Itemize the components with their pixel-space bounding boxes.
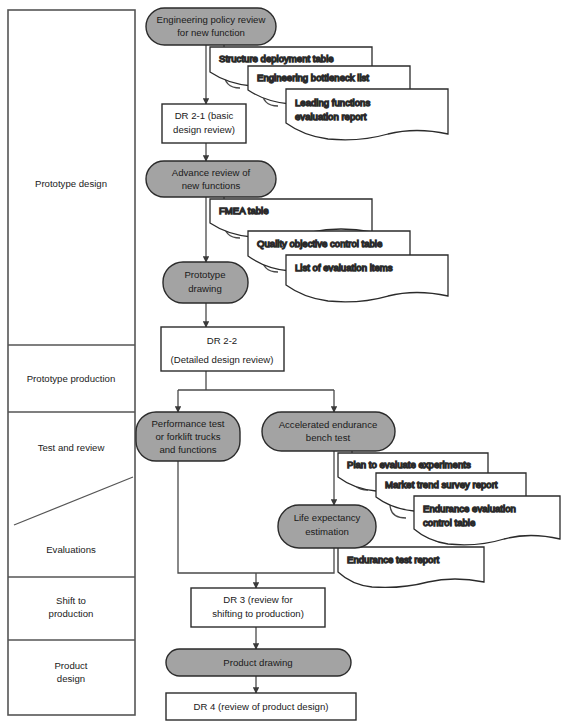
node-label-accelerated-endurance-line1: Accelerated endurance bbox=[279, 419, 378, 430]
document-label-plan-to-evaluate-experiments: Plan to evaluate experiments bbox=[347, 459, 471, 470]
phase-label-product-design-line1: Product bbox=[54, 660, 87, 671]
node-label-engineering-policy-review-line1: Engineering policy review bbox=[157, 14, 266, 25]
node-product-drawing[interactable]: Product drawing bbox=[166, 649, 351, 676]
node-label-dr-2-2-line1: DR 2-2 bbox=[207, 335, 237, 346]
node-dr-4[interactable]: DR 4 (review of product design) bbox=[166, 693, 356, 720]
node-label-performance-test-line1: Performance test bbox=[151, 418, 224, 429]
node-advance-review[interactable]: Advance review of new functions bbox=[146, 161, 276, 197]
node-accelerated-endurance[interactable]: Accelerated endurance bench test bbox=[262, 412, 395, 451]
document-label-market-trend-survey-report: Market trend survey report bbox=[385, 479, 498, 490]
node-label-dr-2-1-line2: design review) bbox=[173, 124, 235, 135]
document-label-endurance-evaluation-line2: control table bbox=[423, 517, 475, 528]
document-endurance-test-report: Endurance test report bbox=[338, 547, 484, 587]
phase-label-product-design-line2: design bbox=[57, 673, 85, 684]
node-performance-test[interactable]: Performance test or forklift trucks and … bbox=[136, 412, 240, 461]
node-label-engineering-policy-review-line2: for new function bbox=[177, 27, 245, 38]
node-label-performance-test-line2: or forklift trucks bbox=[155, 431, 220, 442]
document-label-leading-functions-line1: Leading functions bbox=[295, 97, 370, 108]
document-list-of-evaluation-items: List of evaluation items bbox=[286, 255, 448, 302]
node-label-dr-4: DR 4 (review of product design) bbox=[194, 701, 329, 712]
node-label-dr-3-line2: shifting to production) bbox=[212, 608, 304, 619]
node-label-life-expectancy-line2: estimation bbox=[305, 526, 349, 537]
connector-perftest-merge bbox=[178, 460, 256, 573]
node-label-dr-2-1-line1: DR 2-1 (basic bbox=[175, 110, 234, 121]
node-label-life-expectancy-line1: Life expectancy bbox=[294, 512, 361, 523]
phase-label-prototype-design: Prototype design bbox=[35, 178, 107, 189]
phase-label-shift-to-production-line1: Shift to bbox=[56, 595, 86, 606]
node-prototype-drawing[interactable]: Prototype drawing bbox=[163, 262, 248, 303]
document-label-endurance-evaluation-line1: Endurance evaluation bbox=[423, 503, 516, 514]
phase-label-test-and-review: Test and review bbox=[38, 442, 105, 453]
document-leading-functions-evaluation-report: Leading functions evaluation report bbox=[286, 89, 448, 140]
phase-label-shift-to-production-line2: production bbox=[49, 608, 94, 619]
document-label-fmea-table: FMEA table bbox=[219, 205, 269, 216]
node-dr-3[interactable]: DR 3 (review for shifting to production) bbox=[191, 588, 325, 627]
node-label-dr-2-2-line2: (Detailed design review) bbox=[171, 354, 274, 365]
phase-label-evaluations: Evaluations bbox=[46, 544, 96, 555]
phase-label-prototype-production: Prototype production bbox=[27, 373, 116, 384]
node-dr-2-2[interactable]: DR 2-2 (Detailed design review) bbox=[161, 327, 284, 371]
node-life-expectancy[interactable]: Life expectancy estimation bbox=[278, 505, 376, 548]
document-label-quality-objective-control-table: Quality objective control table bbox=[257, 238, 382, 249]
flowchart-canvas: Prototype design Prototype production Te… bbox=[0, 0, 564, 725]
node-label-dr-3-line1: DR 3 (review for bbox=[223, 594, 293, 605]
node-dr-2-1[interactable]: DR 2-1 (basic design review) bbox=[162, 104, 246, 143]
document-endurance-evaluation-control-table: Endurance evaluation control table bbox=[414, 496, 560, 545]
flowchart-diagram: Prototype design Prototype production Te… bbox=[0, 0, 564, 725]
document-label-leading-functions-line2: evaluation report bbox=[295, 111, 367, 122]
document-label-list-of-evaluation-items: List of evaluation items bbox=[295, 262, 393, 273]
connector-life-merge bbox=[256, 548, 334, 573]
node-label-product-drawing: Product drawing bbox=[223, 657, 292, 668]
node-engineering-policy-review[interactable]: Engineering policy review for new functi… bbox=[146, 8, 276, 45]
document-label-endurance-test-report: Endurance test report bbox=[347, 554, 440, 565]
document-label-structure-deployment-table: Structure deployment table bbox=[219, 53, 334, 64]
node-label-performance-test-line3: and functions bbox=[159, 444, 216, 455]
documents: Structure deployment table Engineering b… bbox=[210, 47, 560, 587]
node-label-prototype-drawing-line2: drawing bbox=[188, 283, 222, 294]
node-label-advance-review-line1: Advance review of bbox=[172, 167, 251, 178]
node-label-prototype-drawing-line1: Prototype bbox=[184, 269, 225, 280]
node-label-advance-review-line2: new functions bbox=[182, 180, 241, 191]
node-label-accelerated-endurance-line2: bench test bbox=[306, 432, 351, 443]
document-label-engineering-bottleneck-list: Engineering bottleneck list bbox=[257, 72, 369, 83]
phase-column: Prototype design Prototype production Te… bbox=[8, 10, 135, 715]
